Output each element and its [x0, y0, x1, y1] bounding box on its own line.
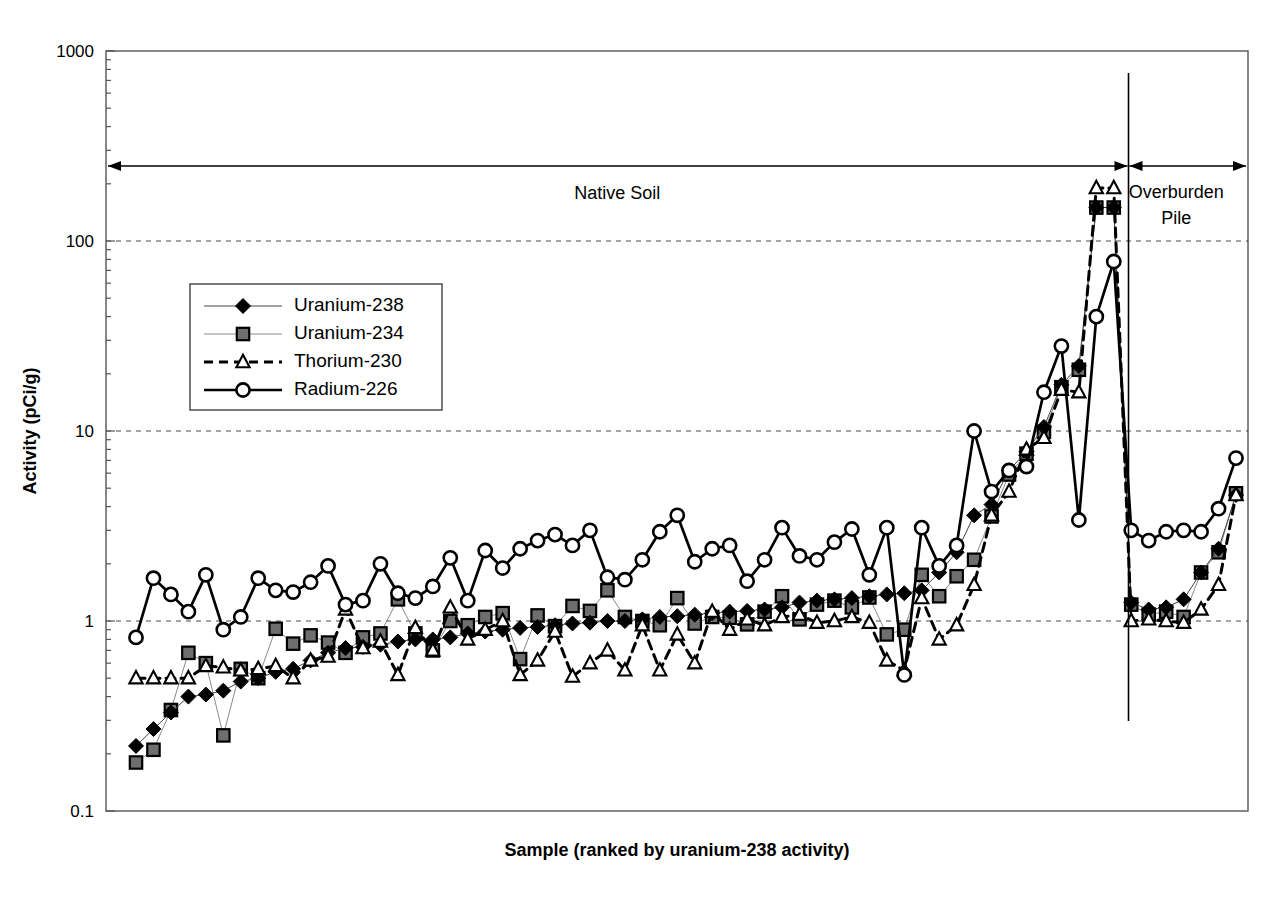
data-point-open-triangle: [1212, 578, 1225, 590]
data-point-open-circle: [129, 631, 142, 644]
data-point-open-triangle: [671, 627, 684, 639]
data-point-open-circle: [426, 580, 439, 593]
data-point-open-circle: [828, 536, 841, 549]
arrow-head-left: [108, 161, 121, 171]
activity-log-chart: 10001001010.1 Native SoilOverburdenPile …: [0, 0, 1282, 898]
data-point-gray-square: [950, 570, 962, 582]
data-point-open-circle: [967, 424, 980, 437]
chart-legend: Uranium-238Uranium-234Thorium-230Radium-…: [190, 284, 442, 410]
data-point-open-circle: [566, 539, 579, 552]
y-axis-title: Activity (pCi/g): [20, 367, 40, 494]
data-point-gray-square: [304, 629, 316, 641]
data-point-open-triangle: [880, 653, 893, 665]
data-point-open-circle: [374, 557, 387, 570]
data-point-open-triangle: [391, 668, 404, 680]
data-point-open-triangle: [269, 659, 282, 671]
data-point-open-circle: [269, 584, 282, 597]
data-point-filled-diamond: [600, 614, 615, 629]
data-point-open-circle: [950, 539, 963, 552]
data-point-open-circle: [548, 528, 561, 541]
x-axis-title: Sample (ranked by uranium-238 activity): [504, 840, 849, 860]
data-point-gray-square: [881, 628, 893, 640]
data-point-filled-diamond: [565, 616, 580, 631]
overburden-pile-span-arrow: [1130, 161, 1246, 171]
data-point-open-triangle: [950, 618, 963, 630]
y-axis-tick-label: 100: [66, 232, 94, 251]
data-point-open-circle: [688, 555, 701, 568]
data-point-open-triangle: [933, 632, 946, 644]
data-point-filled-diamond: [198, 687, 213, 702]
data-point-open-circle: [810, 553, 823, 566]
legend-label-radium-226[interactable]: Radium-226: [294, 378, 398, 399]
data-point-gray-square: [601, 584, 613, 596]
data-point-open-circle: [461, 594, 474, 607]
data-point-open-triangle: [967, 578, 980, 590]
arrow-head-right: [1233, 161, 1246, 171]
data-point-open-circle: [653, 525, 666, 538]
data-point-open-circle: [793, 549, 806, 562]
arrow-head-right: [1115, 161, 1128, 171]
data-point-open-circle: [496, 561, 509, 574]
data-point-open-circle: [758, 553, 771, 566]
data-point-open-circle: [1194, 525, 1207, 538]
data-series-layer: [129, 181, 1244, 769]
data-point-open-circle: [1177, 524, 1190, 537]
data-point-gray-square: [566, 600, 578, 612]
data-point-open-circle: [863, 568, 876, 581]
data-point-open-circle: [671, 509, 684, 522]
data-point-open-circle: [915, 521, 928, 534]
data-point-open-circle: [321, 559, 334, 572]
data-point-open-circle: [199, 568, 212, 581]
data-point-open-circle: [1055, 339, 1068, 352]
data-point-open-circle: [236, 383, 249, 396]
y-axis-tick-labels: 10001001010.1: [56, 42, 94, 821]
region-annotations: Native SoilOverburdenPile: [108, 161, 1246, 228]
native-soil-label: Native Soil: [574, 183, 660, 203]
data-point-open-circle: [723, 539, 736, 552]
data-point-filled-diamond: [897, 586, 912, 601]
data-point-open-circle: [636, 553, 649, 566]
legend-label-uranium-238[interactable]: Uranium-238: [294, 294, 404, 315]
data-point-open-circle: [339, 598, 352, 611]
data-point-open-triangle: [653, 663, 666, 675]
data-point-gray-square: [130, 756, 142, 768]
data-point-gray-square: [182, 647, 194, 659]
data-point-open-circle: [1020, 460, 1033, 473]
data-point-open-circle: [164, 588, 177, 601]
data-point-gray-square: [147, 744, 159, 756]
data-point-open-circle: [741, 575, 754, 588]
data-point-open-circle: [933, 559, 946, 572]
data-point-open-circle: [1002, 464, 1015, 477]
data-point-open-circle: [583, 524, 596, 537]
data-point-open-circle: [182, 605, 195, 618]
data-point-open-circle: [234, 610, 247, 623]
legend-label-thorium-230[interactable]: Thorium-230: [294, 350, 402, 371]
data-point-open-circle: [880, 521, 893, 534]
data-point-open-circle: [601, 571, 614, 584]
data-point-gray-square: [933, 590, 945, 602]
data-point-open-circle: [898, 668, 911, 681]
data-point-open-circle: [1107, 255, 1120, 268]
data-point-open-circle: [287, 585, 300, 598]
y-axis-tick-label: 10: [75, 422, 94, 441]
data-point-open-circle: [1090, 310, 1103, 323]
chart-figure: 10001001010.1 Native SoilOverburdenPile …: [0, 0, 1282, 898]
data-point-open-circle: [479, 544, 492, 557]
data-point-open-circle: [1142, 534, 1155, 547]
y-axis-tick-label: 1000: [56, 42, 94, 61]
data-point-open-circle: [706, 542, 719, 555]
data-point-gray-square: [269, 623, 281, 635]
data-point-filled-diamond: [443, 630, 458, 645]
data-point-open-circle: [531, 534, 544, 547]
overburden-pile-label-line1: Overburden: [1129, 182, 1224, 202]
data-point-open-circle: [356, 594, 369, 607]
data-point-filled-diamond: [670, 609, 685, 624]
overburden-pile-label-line2: Pile: [1161, 208, 1191, 228]
data-point-open-circle: [1229, 452, 1242, 465]
series-thorium-230: [129, 181, 1242, 684]
arrow-head-left: [1130, 161, 1143, 171]
data-point-open-circle: [514, 542, 527, 555]
legend-label-uranium-234[interactable]: Uranium-234: [294, 322, 404, 343]
data-point-open-circle: [1212, 502, 1225, 515]
data-point-filled-diamond: [216, 683, 231, 698]
